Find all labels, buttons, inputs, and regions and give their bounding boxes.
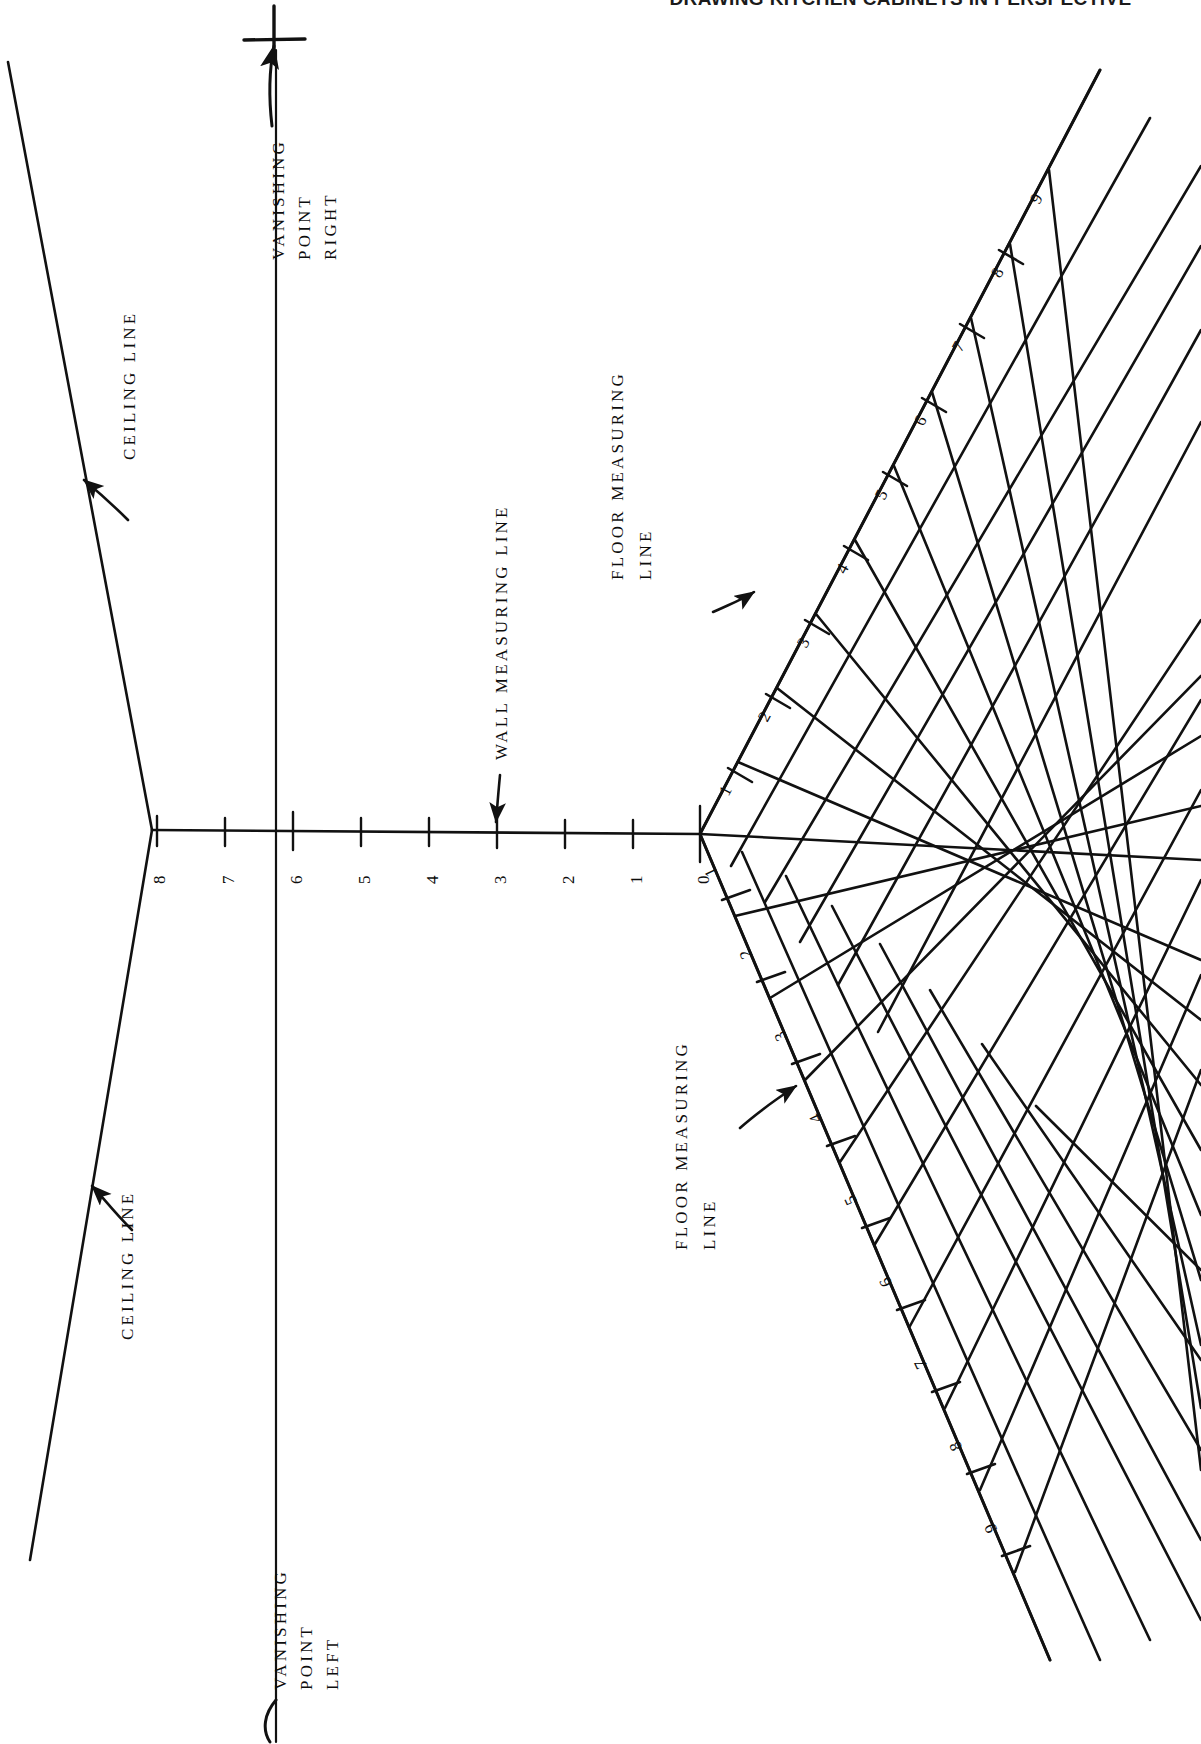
floor-measuring-line-lower-label-2: LINE: [700, 1198, 720, 1250]
floor-measuring-line-upper-leader: [713, 592, 754, 612]
vp-left-line3: LEFT: [320, 1637, 346, 1690]
vanishing-point-left-label-3: LEFT: [268, 1637, 398, 1690]
perspective-diagram-page: DRAWING KITCHEN CABINETS IN PERSPECTIVE: [0, 0, 1201, 1744]
floor-measuring-line-lower-label-1: FLOOR MEASURING: [672, 1041, 692, 1250]
vanishing-point-right-label-3: RIGHT: [266, 192, 396, 260]
floor-measuring-line-upper-ticks: [728, 250, 1023, 782]
floor-measuring-line-lower-leader: [740, 1086, 796, 1128]
wall-tick-label-4: 4: [423, 876, 443, 885]
vp-right-line3: RIGHT: [318, 192, 344, 260]
diagram-artwork: [0, 0, 1201, 1744]
wall-tick-label-5: 5: [355, 876, 375, 885]
ceiling-line-lower-label: CEILING LINE: [118, 1191, 138, 1340]
wall-measuring-line-axis: [152, 830, 700, 834]
wall-tick-label-1: 1: [627, 876, 647, 885]
floor-measuring-line-upper-label-2: LINE: [636, 528, 656, 580]
vanishing-point-right-arrow: [270, 46, 274, 126]
wall-tick-label-3: 3: [491, 876, 511, 885]
wall-measuring-line-leader: [496, 775, 500, 822]
vanishing-point-left-marker: [265, 1700, 276, 1742]
floor-grid-lower-rays: [735, 620, 1201, 1572]
wall-tick-label-8: 8: [150, 876, 170, 885]
wall-tick-label-2: 2: [559, 876, 579, 885]
wall-tick-label-6: 6: [287, 876, 307, 885]
wall-tick-label-7: 7: [219, 876, 239, 885]
floor-measuring-line-upper-label-1: FLOOR MEASURING: [608, 371, 628, 580]
ceiling-line-upper-label: CEILING LINE: [120, 311, 140, 460]
wall-measuring-line-label: WALL MEASURING LINE: [492, 504, 512, 760]
